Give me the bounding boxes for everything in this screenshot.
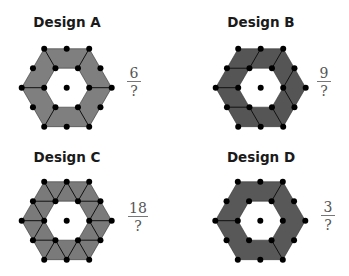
grid-dot [97, 237, 103, 243]
grid-dot [269, 65, 275, 71]
grid-dot [280, 179, 286, 185]
grid-dot [30, 237, 36, 243]
grid-dot [235, 85, 241, 91]
grid-dot [280, 218, 286, 224]
grid-dot [109, 85, 115, 91]
grid-dot [19, 218, 25, 224]
grid-dot [258, 124, 264, 130]
grid-dot [41, 46, 47, 52]
grid-dot [30, 198, 36, 204]
grid-dot [213, 85, 219, 91]
title-design-b: Design B [201, 14, 321, 30]
grid-dot [280, 257, 286, 263]
fraction-design-a: 6 ? [127, 66, 141, 98]
grid-dot [246, 237, 252, 243]
grid-dot [52, 198, 58, 204]
grid-dot [235, 179, 241, 185]
grid-dot [224, 237, 230, 243]
grid-dot [75, 104, 81, 110]
numerator: 18 [128, 201, 148, 217]
fraction-design-d: 3 ? [321, 200, 335, 232]
design-b-hexagon [213, 46, 309, 130]
grid-dot [86, 179, 92, 185]
grid-dot [257, 218, 263, 224]
grid-dot [97, 65, 103, 71]
grid-dot [86, 124, 92, 130]
grid-dot [64, 46, 70, 52]
numerator: 9 [317, 66, 331, 82]
grid-dot [41, 179, 47, 185]
grid-dot [75, 237, 81, 243]
grid-dot [41, 257, 47, 263]
grid-dot [246, 104, 252, 110]
grid-dot [86, 46, 92, 52]
grid-dot [109, 218, 115, 224]
grid-dot [64, 85, 70, 91]
grid-dot [86, 218, 92, 224]
denominator: ? [128, 217, 148, 233]
design-c-hexagon [19, 179, 115, 263]
grid-dot [291, 198, 297, 204]
grid-dot [235, 46, 241, 52]
title-design-c: Design C [7, 149, 127, 165]
grid-dot [269, 104, 275, 110]
grid-dot [75, 65, 81, 71]
grid-dot [269, 198, 275, 204]
grid-dot [291, 65, 297, 71]
grid-dot [235, 124, 241, 130]
grid-dot [302, 218, 308, 224]
grid-dot [86, 257, 92, 263]
numerator: 6 [127, 66, 141, 82]
grid-dot [30, 104, 36, 110]
grid-dot [212, 218, 218, 224]
denominator: ? [317, 82, 331, 98]
grid-dot [280, 124, 286, 130]
grid-dot [30, 65, 36, 71]
grid-dot [64, 218, 70, 224]
grid-dot [52, 65, 58, 71]
denominator: ? [127, 82, 141, 98]
grid-dot [224, 104, 230, 110]
grid-dot [269, 237, 275, 243]
grid-dot [86, 85, 92, 91]
fraction-design-c: 18 ? [128, 201, 148, 233]
fraction-design-b: 9 ? [317, 66, 331, 98]
grid-dot [41, 124, 47, 130]
denominator: ? [321, 216, 335, 232]
grid-dot [235, 257, 241, 263]
title-design-a: Design A [7, 14, 127, 30]
grid-dot [64, 124, 70, 130]
grid-dot [97, 198, 103, 204]
grid-dot [41, 218, 47, 224]
grid-dot [291, 237, 297, 243]
grid-dot [224, 198, 230, 204]
grid-dot [75, 198, 81, 204]
grid-dot [64, 179, 70, 185]
design-a-hexagon [19, 46, 115, 130]
grid-dot [280, 46, 286, 52]
grid-dot [246, 65, 252, 71]
grid-dot [97, 104, 103, 110]
grid-dot [246, 198, 252, 204]
grid-dot [258, 46, 264, 52]
grid-dot [257, 257, 263, 263]
grid-dot [224, 65, 230, 71]
designs-canvas [0, 0, 349, 276]
grid-dot [258, 85, 264, 91]
grid-dot [52, 104, 58, 110]
grid-dot [19, 85, 25, 91]
grid-dot [303, 85, 309, 91]
numerator: 3 [321, 200, 335, 216]
grid-dot [280, 85, 286, 91]
grid-dot [52, 237, 58, 243]
grid-dot [291, 104, 297, 110]
design-d-hexagon [212, 179, 308, 263]
title-design-d: Design D [201, 149, 321, 165]
grid-dot [41, 85, 47, 91]
grid-dot [235, 218, 241, 224]
grid-dot [257, 179, 263, 185]
grid-dot [64, 257, 70, 263]
